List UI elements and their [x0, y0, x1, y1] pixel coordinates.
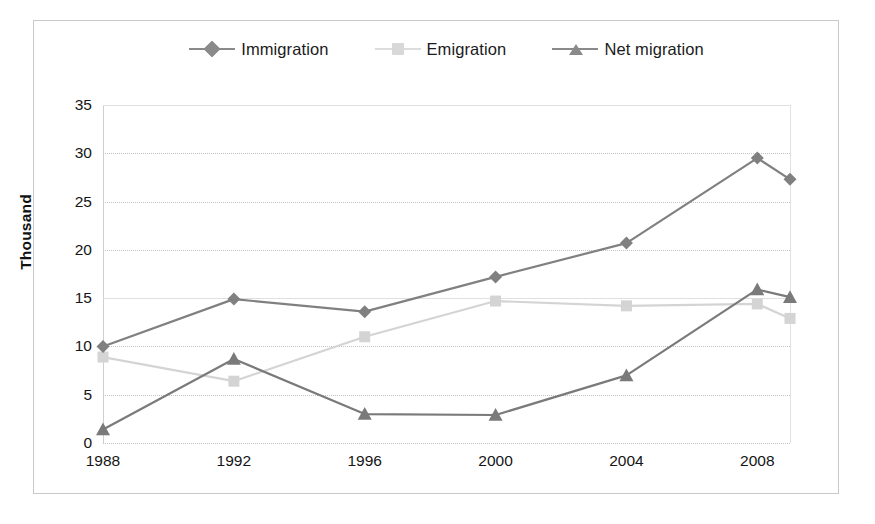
- y-tick-label-25: 25: [54, 193, 92, 211]
- x-tick-label-1988: 1988: [68, 452, 138, 470]
- series-layer: [103, 105, 790, 443]
- diamond-marker-icon: [189, 42, 235, 56]
- x-tick-label-1996: 1996: [330, 452, 400, 470]
- x-tick-label-1992: 1992: [199, 452, 269, 470]
- y-tick-label-10: 10: [54, 337, 92, 355]
- y-tick-label-15: 15: [54, 289, 92, 307]
- gridline-0: [103, 443, 790, 444]
- legend-item-net-migration: Net migration: [552, 40, 703, 59]
- y-tick-label-35: 35: [54, 96, 92, 114]
- triangle-marker-icon: [552, 42, 598, 56]
- chart-legend: Immigration Emigration Net migration: [103, 36, 790, 62]
- plot-right-edge: [790, 105, 791, 443]
- migration-line-chart: Immigration Emigration Net migration Tho…: [0, 0, 875, 524]
- y-tick-label-20: 20: [54, 241, 92, 259]
- y-tick-label-0: 0: [54, 434, 92, 452]
- legend-label-net-migration: Net migration: [604, 40, 703, 59]
- x-tick-label-2004: 2004: [591, 452, 661, 470]
- y-tick-label-5: 5: [54, 386, 92, 404]
- x-tick-label-2000: 2000: [461, 452, 531, 470]
- x-tick-label-2008: 2008: [722, 452, 792, 470]
- series-emigration: [98, 296, 796, 387]
- legend-item-immigration: Immigration: [189, 40, 328, 59]
- y-tick-label-30: 30: [54, 144, 92, 162]
- legend-label-immigration: Immigration: [241, 40, 328, 59]
- legend-item-emigration: Emigration: [375, 40, 507, 59]
- y-axis-title: Thousand: [17, 194, 35, 270]
- series-immigration: [97, 152, 797, 353]
- square-marker-icon: [375, 42, 421, 56]
- legend-label-emigration: Emigration: [427, 40, 507, 59]
